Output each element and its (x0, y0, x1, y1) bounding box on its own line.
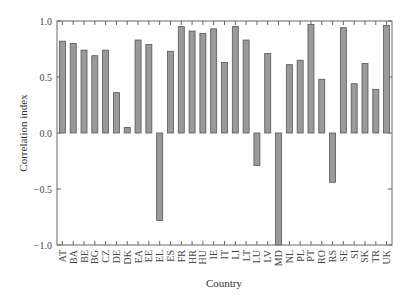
bar-md (276, 133, 282, 245)
x-tick-label: PT (305, 250, 316, 262)
bar-rs (330, 133, 336, 182)
bar-sk (362, 64, 368, 133)
x-tick-label: CZ (100, 250, 111, 263)
bar-cz (103, 50, 109, 133)
bar-bg (92, 56, 98, 133)
bar-pl (297, 60, 303, 133)
bar-es (167, 51, 173, 133)
x-tick-label: BG (89, 250, 100, 264)
y-tick-label: 0.0 (40, 128, 53, 139)
bar-ba (70, 43, 76, 133)
bar-lu (254, 133, 260, 165)
bar-hu (200, 33, 206, 133)
bar-dk (124, 127, 130, 133)
x-axis-title: Country (206, 277, 243, 289)
x-tick-label: IE (208, 250, 219, 259)
x-tick-label: ES (165, 250, 176, 262)
bar-tr (373, 89, 379, 133)
x-tick-label: SK (359, 249, 370, 263)
x-tick-label: EA (133, 249, 144, 263)
bar-ro (319, 79, 325, 133)
bar-uk (384, 25, 390, 133)
y-tick-label: 1.0 (40, 16, 53, 27)
bar-lv (265, 53, 271, 133)
x-tick-label: IT (219, 250, 230, 259)
bar-se (340, 28, 346, 133)
x-tick-label: PL (295, 250, 306, 262)
y-tick-label: −1.0 (34, 240, 52, 251)
bar-pt (308, 24, 314, 133)
x-tick-label: LI (230, 250, 241, 259)
x-tick-label: LU (251, 249, 262, 263)
bar-de (113, 93, 119, 133)
bar-ie (211, 29, 217, 133)
x-tick-label: FR (176, 250, 187, 263)
y-axis-title: Correlation index (17, 94, 29, 172)
x-tick-label: BE (79, 250, 90, 263)
y-tick-label: −0.5 (34, 184, 52, 195)
bar-at (59, 41, 65, 133)
x-tick-label: NL (284, 250, 295, 263)
bar-li (232, 27, 238, 133)
x-tick-label: AT (57, 250, 68, 262)
bar-lt (243, 40, 249, 133)
x-tick-label: LT (241, 250, 252, 261)
bar-it (222, 62, 228, 133)
x-tick-label: TR (370, 250, 381, 263)
bar-hr (189, 31, 195, 133)
x-tick-label: RS (327, 250, 338, 262)
bar-be (81, 50, 87, 133)
x-tick-label: DE (111, 250, 122, 263)
bar-el (157, 133, 163, 220)
x-tick-label: HU (197, 249, 208, 264)
bar-ee (146, 45, 152, 133)
bar-nl (286, 65, 292, 133)
x-tick-label: MD (273, 250, 284, 266)
bar-fr (178, 27, 184, 133)
bar-chart: −1.0−0.50.00.51.0 ATBABEBGCZDEDKEAEEELES… (0, 0, 413, 298)
x-tick-label: SI (349, 250, 360, 259)
x-tick-label: SE (338, 250, 349, 262)
x-tick-label: UK (381, 249, 392, 264)
x-tick-label: RO (316, 250, 327, 264)
x-tick-label: EL (154, 250, 165, 262)
bar-si (351, 84, 357, 133)
x-tick-label: DK (122, 249, 133, 264)
x-tick-label: LV (262, 249, 273, 262)
x-tick-label: BA (68, 249, 79, 264)
x-tick-label: HR (187, 250, 198, 264)
y-tick-label: 0.5 (40, 72, 53, 83)
bar-ea (135, 40, 141, 133)
bar-series (59, 24, 389, 245)
x-tick-label: EE (143, 250, 154, 262)
